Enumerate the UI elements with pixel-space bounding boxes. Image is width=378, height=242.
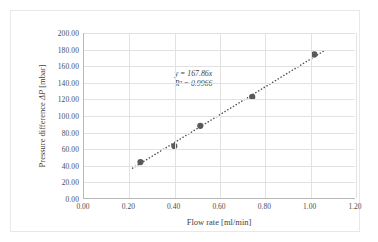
y-axis-title-prefix: Pressure difference [37, 100, 47, 167]
y-axis-tick-label: 200.00 [19, 29, 79, 38]
data-point [197, 123, 203, 129]
data-point-markers [137, 51, 317, 165]
y-axis-tick-label: 40.00 [19, 161, 79, 170]
trendline-segment [133, 51, 324, 168]
y-axis-tick-label: 120.00 [19, 95, 79, 104]
y-axis-tick-label: 100.00 [19, 112, 79, 121]
trendline [133, 51, 324, 168]
vertical-gridline [265, 33, 266, 198]
x-axis-tick-label: 1.00 [287, 202, 333, 211]
data-point [311, 51, 317, 57]
x-axis-tick-label: 0.80 [241, 202, 287, 211]
x-axis-tick-label: 1.20 [332, 202, 378, 211]
y-axis-tick-label: 80.00 [19, 128, 79, 137]
y-axis-tick-label: 140.00 [19, 78, 79, 87]
x-axis-title: Flow rate [ml/min] [83, 217, 355, 227]
y-axis-title-container: Pressure difference ΔP [mbar] [35, 33, 49, 199]
y-axis-tick-label: 180.00 [19, 45, 79, 54]
trendline-equation: y = 167.86x [175, 69, 213, 79]
data-point [137, 159, 143, 165]
vertical-gridline [129, 33, 130, 198]
y-axis-title: Pressure difference ΔP [mbar] [37, 65, 47, 168]
y-axis-title-suffix: [mbar] [37, 65, 47, 90]
y-axis-tick-label: 160.00 [19, 62, 79, 71]
y-axis-tick-label: 20.00 [19, 178, 79, 187]
x-axis-tick-label: 0.60 [196, 202, 242, 211]
chart-screenshot: 0.0020.0040.0060.0080.00100.00120.00140.… [0, 0, 378, 242]
chart-outer-frame: 0.0020.0040.0060.0080.00100.00120.00140.… [10, 10, 360, 232]
x-axis-tick-labels: 0.000.200.400.600.801.001.20 [83, 202, 355, 216]
vertical-gridline [175, 33, 176, 198]
plot-area: y = 167.86x R² = 0.9966 [83, 33, 355, 199]
x-axis-tick-label: 0.40 [151, 202, 197, 211]
vertical-gridline [220, 33, 221, 198]
y-axis-title-symbol: ΔP [37, 90, 47, 100]
y-axis-tick-label: 60.00 [19, 145, 79, 154]
vertical-gridline [356, 33, 357, 198]
x-axis-tick-label: 0.00 [60, 202, 106, 211]
vertical-gridline [311, 33, 312, 198]
x-axis-tick-label: 0.20 [105, 202, 151, 211]
trendline-equation-annotation: y = 167.86x R² = 0.9966 [175, 69, 213, 89]
